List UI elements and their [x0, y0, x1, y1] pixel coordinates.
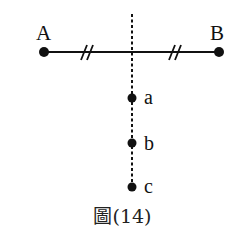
point-a-endpoint: [39, 47, 49, 57]
point-b-endpoint: [214, 47, 224, 57]
figure-14: A B a b c 圖(14): [0, 0, 245, 237]
label-B: B: [210, 21, 224, 45]
point-b: [128, 139, 137, 148]
point-a: [128, 94, 137, 103]
label-a: a: [144, 86, 153, 108]
label-A: A: [36, 21, 52, 45]
point-c: [128, 183, 137, 192]
label-c: c: [144, 175, 153, 197]
figure-caption: 圖(14): [0, 201, 245, 228]
label-b: b: [144, 132, 154, 154]
